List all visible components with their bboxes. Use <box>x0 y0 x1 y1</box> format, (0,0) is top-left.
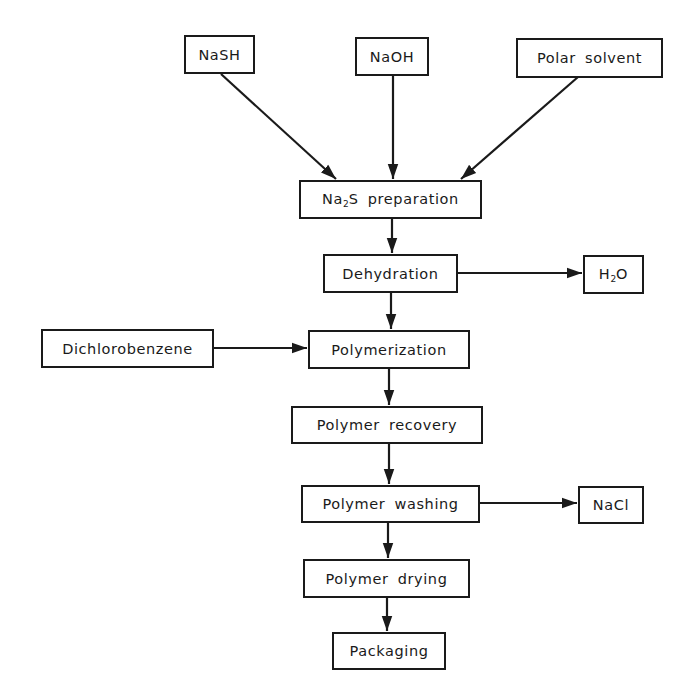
label-part: O <box>616 266 628 282</box>
step-node-polymer-recovery: Polymer recovery <box>291 406 483 444</box>
process-flowchart: NaSH NaOH Polar solvent Dichlorobenzene … <box>0 0 680 698</box>
label-part: H <box>599 266 611 282</box>
node-label: H2O <box>599 266 628 284</box>
label-part: Na <box>322 191 343 207</box>
step-node-na2s-preparation: Na2S preparation <box>299 180 482 219</box>
node-label: NaSH <box>198 47 240 63</box>
input-node-dichlorobenzene: Dichlorobenzene <box>41 329 214 368</box>
step-node-dehydration: Dehydration <box>323 254 458 293</box>
node-label: Polymerization <box>331 342 446 358</box>
node-label: NaOH <box>370 49 414 65</box>
output-node-nacl: NaCl <box>578 486 644 524</box>
node-label: Polymer washing <box>322 496 458 512</box>
step-node-polymer-drying: Polymer drying <box>303 559 470 598</box>
input-node-naoh: NaOH <box>355 37 429 76</box>
step-node-packaging: Packaging <box>332 632 446 670</box>
step-node-polymer-washing: Polymer washing <box>301 485 480 523</box>
arrow-nash-to-na2s-prep <box>221 74 336 179</box>
node-label: Dehydration <box>342 266 438 282</box>
node-label: Polymer drying <box>326 571 448 587</box>
node-label: Packaging <box>349 643 428 659</box>
node-label: Dichlorobenzene <box>62 341 193 357</box>
arrow-polar-solvent-to-na2s-prep <box>461 77 578 179</box>
node-label: Polymer recovery <box>317 417 457 433</box>
node-label: NaCl <box>593 497 629 513</box>
output-node-h2o: H2O <box>583 255 644 294</box>
node-label: Na2S preparation <box>322 191 459 209</box>
input-node-polar-solvent: Polar solvent <box>516 38 663 78</box>
label-part: S preparation <box>349 191 459 207</box>
step-node-polymerization: Polymerization <box>308 330 470 369</box>
node-label: Polar solvent <box>537 50 642 66</box>
input-node-nash: NaSH <box>184 35 255 74</box>
